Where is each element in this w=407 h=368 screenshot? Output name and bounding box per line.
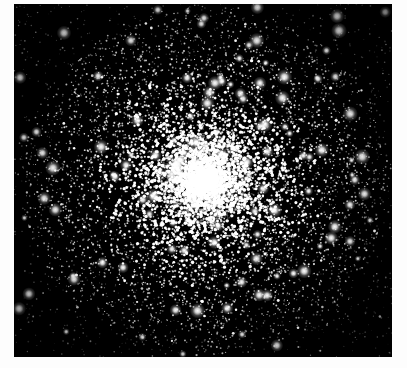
- figure-page: [0, 0, 407, 368]
- resolved-starfield: [14, 4, 392, 357]
- astronomical-image-plate: [14, 4, 392, 357]
